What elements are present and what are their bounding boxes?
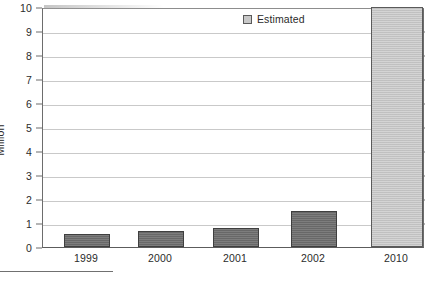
bar-2002 bbox=[291, 211, 337, 247]
x-tick-label-2002: 2002 bbox=[301, 252, 325, 264]
x-tick-label-1999: 1999 bbox=[74, 252, 98, 264]
bar-chart-figure: Million 10 9 8 7 6 5 4 3 2 1 0 bbox=[0, 0, 425, 281]
y-tick-label-1: 1 bbox=[26, 218, 32, 230]
x-tick-label-2000: 2000 bbox=[148, 252, 172, 264]
y-tick-label-9: 9 bbox=[26, 26, 32, 38]
y-tick-label-6: 6 bbox=[26, 98, 32, 110]
y-tick-label-8: 8 bbox=[26, 50, 32, 62]
x-tick-label-2001: 2001 bbox=[223, 252, 247, 264]
bar-2000 bbox=[138, 231, 184, 247]
legend-swatch-icon bbox=[243, 15, 252, 24]
x-axis: 1999 2000 2001 2002 2010 bbox=[42, 252, 424, 272]
x-tick-label-2010: 2010 bbox=[384, 252, 408, 264]
y-tick-label-10: 10 bbox=[20, 2, 32, 14]
y-tick-label-2: 2 bbox=[26, 194, 32, 206]
y-tick-label-0: 0 bbox=[26, 242, 32, 254]
y-tick-label-3: 3 bbox=[26, 170, 32, 182]
legend: Estimated bbox=[243, 13, 305, 25]
y-tick-label-5: 5 bbox=[26, 122, 32, 134]
bar-2001 bbox=[213, 228, 259, 247]
bar-1999 bbox=[64, 234, 110, 247]
plot-area bbox=[42, 8, 424, 248]
legend-label-estimated: Estimated bbox=[257, 13, 305, 25]
bar-2010-estimated bbox=[371, 7, 423, 247]
y-tick-label-4: 4 bbox=[26, 146, 32, 158]
y-tick-label-7: 7 bbox=[26, 74, 32, 86]
bars-layer bbox=[43, 9, 423, 247]
page-rule bbox=[0, 271, 113, 272]
y-axis: 10 9 8 7 6 5 4 3 2 1 0 bbox=[0, 0, 42, 281]
